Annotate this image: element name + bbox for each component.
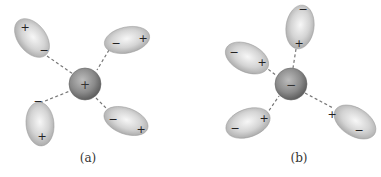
positive-pole-sign: + — [294, 37, 303, 50]
negative-pole-sign: − — [111, 37, 120, 50]
attraction-line — [47, 56, 73, 74]
negative-pole-sign: − — [33, 95, 42, 108]
positive-pole-sign: + — [136, 123, 145, 136]
panel-label-b: (b) — [290, 151, 307, 165]
negative-pole-sign: − — [298, 3, 307, 16]
central-ion-cation: + — [69, 68, 101, 100]
attraction-line — [293, 49, 296, 68]
negative-pole-sign: − — [108, 113, 117, 126]
central-ion-anion: − — [275, 68, 307, 100]
positive-pole-sign: + — [257, 56, 266, 69]
ion-dipole-diagram: + + − − + − + − + (a) — [0, 0, 381, 177]
attraction-line — [40, 91, 70, 103]
positive-pole-sign: + — [138, 32, 147, 45]
dipole-molecule: + − — [7, 12, 56, 64]
dipole-molecule: − + — [222, 102, 275, 144]
positive-pole-sign: + — [20, 21, 29, 34]
dipole-molecule: − + — [283, 3, 317, 51]
panel-label-a: (a) — [80, 151, 97, 165]
attraction-line — [97, 50, 109, 70]
attraction-line — [305, 93, 333, 108]
ion-charge-sign: − — [286, 78, 296, 92]
dipole-molecule: − + — [100, 101, 152, 141]
panel-a: + + − − + − + − + (a) — [7, 12, 152, 165]
positive-pole-sign: + — [259, 112, 268, 125]
dipole-molecule: − + — [24, 95, 56, 147]
panel-b: − − + − + − + + − (b) — [220, 3, 381, 165]
dipole-molecule: − + — [102, 23, 152, 58]
negative-pole-sign: − — [39, 44, 48, 57]
negative-pole-sign: − — [230, 122, 239, 135]
negative-pole-sign: − — [354, 124, 363, 137]
dipole-molecule: − + — [220, 36, 274, 81]
negative-pole-sign: − — [229, 46, 238, 59]
ion-charge-sign: + — [80, 78, 90, 92]
dipole-molecule: + − — [327, 98, 381, 146]
positive-pole-sign: + — [327, 108, 336, 121]
positive-pole-sign: + — [37, 130, 46, 143]
